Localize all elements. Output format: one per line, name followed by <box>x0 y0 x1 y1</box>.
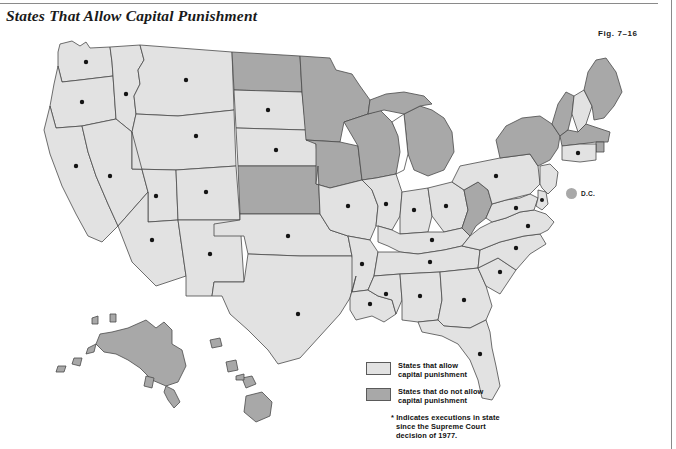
legend-label-deny-line2: capital punishment <box>398 396 483 405</box>
alaska-island-north-2 <box>110 314 116 322</box>
execution-marker-maryland <box>514 206 518 210</box>
legend-swatch-allow <box>366 362 391 375</box>
legend-footnote-line3: decision of 1977. <box>396 431 556 440</box>
execution-marker-oregon <box>80 100 84 104</box>
execution-marker-florida <box>478 352 482 356</box>
state-north-dakota <box>232 52 302 92</box>
map-legend: States that allow capital punishment Sta… <box>366 361 556 441</box>
legend-label-allow: States that allow capital punishment <box>398 361 467 380</box>
legend-label-deny: States that do not allow capital punishm… <box>398 387 483 406</box>
legend-footnote-line1: * Indicates executions in state <box>396 413 556 422</box>
execution-marker-oklahoma <box>286 234 290 238</box>
legend-label-deny-line1: States that do not allow <box>398 387 483 396</box>
execution-marker-south-carolina <box>498 270 502 274</box>
execution-marker-new-mexico <box>208 252 212 256</box>
dc-label: D.C. <box>581 190 595 197</box>
execution-marker-wyoming <box>194 134 198 138</box>
execution-marker-georgia <box>462 298 466 302</box>
execution-marker-connecticut <box>576 151 580 155</box>
execution-marker-missouri <box>346 204 350 208</box>
alaska-aleutian-3 <box>56 366 66 372</box>
execution-marker-louisiana <box>368 302 372 306</box>
execution-marker-texas <box>296 312 300 316</box>
execution-marker-mississippi <box>384 292 388 296</box>
execution-marker-arkansas <box>360 262 364 266</box>
execution-marker-kentucky <box>430 238 434 242</box>
state-wyoming <box>132 110 236 170</box>
alaska-aleutian-2 <box>72 358 82 366</box>
state-ohio <box>428 182 468 232</box>
execution-marker-delaware <box>540 198 544 202</box>
state-rhode-island <box>596 142 604 152</box>
us-map-svg <box>0 14 676 444</box>
execution-marker-illinois <box>384 202 388 206</box>
state-kansas <box>238 166 320 214</box>
figure-page: States That Allow Capital Punishment Fig… <box>0 0 676 449</box>
legend-item-allow: States that allow capital punishment <box>366 361 556 380</box>
execution-marker-utah <box>154 194 158 198</box>
top-divider-rule <box>0 3 658 4</box>
execution-marker-south-dakota <box>266 108 270 112</box>
state-vermont <box>552 92 574 136</box>
execution-marker-tennessee <box>428 260 432 264</box>
execution-marker-virginia <box>526 224 530 228</box>
legend-swatch-deny <box>366 388 391 401</box>
execution-marker-montana <box>184 78 188 82</box>
execution-marker-washington <box>84 60 88 64</box>
legend-footnote: * Indicates executions in state since th… <box>396 413 556 441</box>
execution-marker-idaho <box>124 92 128 96</box>
execution-marker-indiana <box>412 208 416 212</box>
legend-label-allow-line1: States that allow <box>398 361 467 370</box>
execution-marker-california <box>74 164 78 168</box>
execution-marker-arizona <box>150 238 154 242</box>
alaska-aleutian-1 <box>86 344 96 354</box>
state-hawaii-kauai <box>210 338 222 348</box>
state-hawaii-oahu <box>226 360 238 372</box>
legend-item-deny: States that do not allow capital punishm… <box>366 387 556 406</box>
execution-marker-pennsylvania <box>494 174 498 178</box>
state-colorado <box>176 166 240 220</box>
execution-marker-alabama <box>418 294 422 298</box>
legend-label-allow-line2: capital punishment <box>398 370 467 379</box>
execution-marker-ohio <box>444 204 448 208</box>
state-hawaii-big-island <box>244 392 272 422</box>
dc-circle-marker <box>566 188 577 199</box>
execution-marker-nevada <box>108 174 112 178</box>
execution-marker-north-carolina <box>514 246 518 250</box>
alaska-panhandle <box>164 386 180 408</box>
legend-footnote-line2: since the Supreme Court <box>396 422 556 431</box>
execution-marker-nebraska <box>274 148 278 152</box>
state-indiana <box>400 188 432 234</box>
execution-marker-colorado <box>204 190 208 194</box>
state-hawaii-molokai <box>236 374 244 380</box>
alaska-island-north-1 <box>92 316 98 324</box>
alaska-island-kodiak <box>144 376 154 388</box>
state-michigan <box>404 106 454 176</box>
state-new-jersey <box>540 164 558 194</box>
state-alaska <box>96 320 186 386</box>
us-map <box>0 14 676 444</box>
